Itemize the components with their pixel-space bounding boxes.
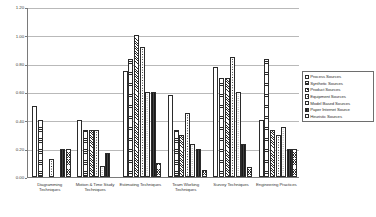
bar <box>145 92 150 177</box>
bar <box>219 78 224 177</box>
bar <box>156 163 161 177</box>
bar-group <box>259 8 298 177</box>
legend-item-label: Paper Internet Source <box>310 107 350 112</box>
bar <box>292 149 297 177</box>
bar <box>123 71 128 177</box>
bar <box>264 59 269 177</box>
plot-area <box>27 8 299 178</box>
y-axis-tick-label: 1.00 <box>0 34 24 39</box>
bar-chart: 0.000.200.400.600.801.001.20 Diagramming… <box>0 0 376 217</box>
legend-item-label: Heuristic Sources <box>310 114 342 119</box>
legend-swatch-icon <box>305 114 309 118</box>
x-axis-category-label: Survey Techniques <box>208 182 253 187</box>
bar-group <box>123 8 162 177</box>
bar <box>287 149 292 177</box>
bar <box>49 159 54 177</box>
bar <box>185 113 190 177</box>
y-axis-tick-label: 0.40 <box>0 119 24 124</box>
legend-item: Model Based Sources <box>305 100 372 107</box>
bar <box>236 92 241 177</box>
bar <box>247 167 252 177</box>
legend-swatch-icon <box>305 101 309 105</box>
legend-item-label: Model Based Sources <box>310 101 350 106</box>
legend-swatch-icon <box>305 75 309 79</box>
legend-item-label: Product Sources <box>310 87 340 92</box>
bar <box>89 130 94 177</box>
bar <box>190 144 195 177</box>
bar <box>60 149 65 177</box>
legend-item: Equipment Sources <box>305 93 372 100</box>
x-axis-category-label: Engineering Practices <box>254 182 299 187</box>
legend-swatch-icon <box>305 88 309 92</box>
bar <box>213 67 218 178</box>
legend-item-label: Process Sources <box>310 74 341 79</box>
bar-group <box>32 8 71 177</box>
bar <box>32 106 37 177</box>
bar <box>134 35 139 177</box>
legend: Process SourcesSynthetic SourcesProduct … <box>302 71 374 122</box>
x-axis-category-label: Motion & Time Study Techniques <box>72 182 117 193</box>
legend-item: Heuristic Sources <box>305 113 372 120</box>
bar <box>202 170 207 177</box>
bar <box>196 149 201 177</box>
y-axis-tick-label: 0.60 <box>0 90 24 95</box>
bar <box>38 120 43 177</box>
bar <box>140 47 145 177</box>
bar <box>225 78 230 177</box>
y-axis-tick-label: 0.00 <box>0 175 24 180</box>
bar <box>281 127 286 177</box>
bar-group <box>77 8 116 177</box>
bar <box>151 92 156 177</box>
x-axis-category-label: Estimating Techniques <box>118 182 163 187</box>
bar <box>105 153 110 177</box>
bar <box>276 135 281 178</box>
y-axis-tick-label: 0.20 <box>0 147 24 152</box>
bar <box>241 144 246 177</box>
y-axis-tick-label: 0.80 <box>0 62 24 67</box>
bar <box>77 120 82 177</box>
bar <box>100 166 105 177</box>
bar <box>179 135 184 178</box>
bar <box>128 59 133 177</box>
legend-item-label: Synthetic Sources <box>310 81 343 86</box>
legend-item-label: Equipment Sources <box>310 94 345 99</box>
bar <box>174 130 179 177</box>
y-axis-tick-mark <box>25 178 27 179</box>
bar <box>270 130 275 177</box>
legend-item: Paper Internet Source <box>305 106 372 113</box>
legend-item: Synthetic Sources <box>305 80 372 87</box>
y-axis-tick-label: 1.20 <box>0 5 24 10</box>
legend-swatch-icon <box>305 94 309 98</box>
legend-item: Process Sources <box>305 74 372 81</box>
legend-swatch-icon <box>305 81 309 85</box>
x-axis-category-label: Team Working Techniques <box>163 182 208 193</box>
bar-group <box>168 8 207 177</box>
legend-swatch-icon <box>305 108 309 112</box>
bar <box>230 57 235 177</box>
bar <box>83 130 88 177</box>
x-axis-category-label: Diagramming Techniques <box>27 182 72 193</box>
legend-item: Product Sources <box>305 87 372 94</box>
bar <box>66 149 71 177</box>
bar <box>168 95 173 177</box>
bar <box>259 120 264 177</box>
bar <box>94 130 99 177</box>
bar-group <box>213 8 252 177</box>
